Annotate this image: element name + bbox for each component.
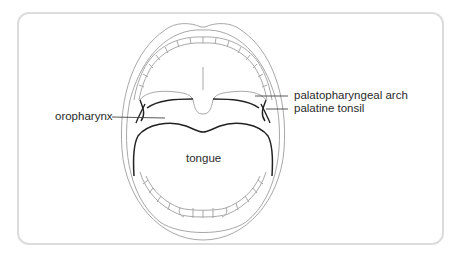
mouth-diagram bbox=[0, 0, 463, 259]
lower-teeth bbox=[140, 172, 266, 218]
label-palatopharyngeal-arch: palatopharyngeal arch bbox=[294, 90, 408, 102]
label-oropharynx: oropharynx bbox=[55, 111, 113, 123]
tongue-outline bbox=[133, 123, 272, 176]
label-tongue: tongue bbox=[186, 153, 221, 165]
oropharynx-leader bbox=[112, 117, 165, 118]
pharynx-outline bbox=[136, 99, 270, 123]
leader-lines bbox=[112, 96, 288, 118]
label-palatine-tonsil: palatine tonsil bbox=[294, 103, 364, 115]
soft-palate-uvula bbox=[140, 67, 266, 114]
